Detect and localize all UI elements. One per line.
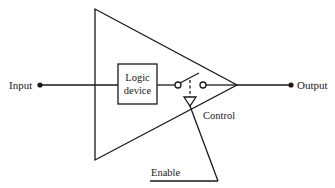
logic-label-line2: device — [124, 85, 152, 96]
switch-contact-right — [200, 82, 206, 88]
logic-device-box — [118, 64, 157, 104]
output-terminal-dot — [288, 82, 293, 87]
control-label: Control — [203, 110, 235, 121]
input-label: Input — [9, 79, 32, 91]
enable-label: Enable — [151, 167, 180, 178]
logic-label-line1: Logic — [125, 72, 150, 83]
control-triangle-icon — [184, 97, 196, 106]
tri-state-buffer-diagram: Input Output Logic device Control Enable — [0, 0, 335, 188]
input-terminal-dot — [37, 82, 42, 87]
output-label: Output — [297, 79, 328, 91]
